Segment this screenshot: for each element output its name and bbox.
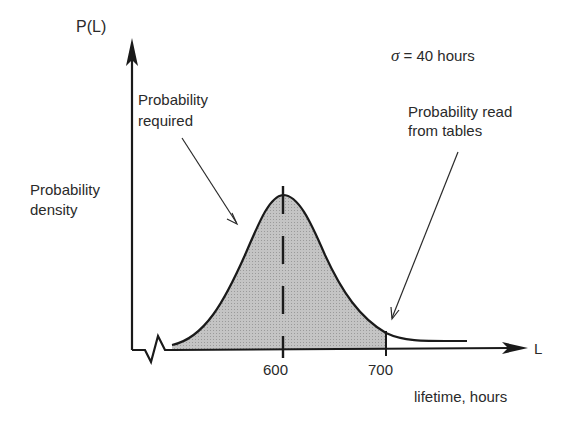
annotation-tables-line1: Probability read [408, 102, 512, 121]
annotation-tables-arrow [392, 152, 458, 318]
y-axis-symbol: P(L) [76, 17, 106, 36]
x-tick-600: 600 [263, 360, 288, 379]
x-axis-symbol: L [534, 339, 542, 358]
sigma-symbol: σ [391, 46, 399, 65]
annotation-required-arrowhead [227, 213, 237, 224]
y-axis-description-line2: density [30, 200, 78, 219]
annotation-required-line1: Probability [138, 90, 208, 109]
x-axis-description: lifetime, hours [414, 387, 507, 406]
normal-distribution-diagram: P(L) Probability density Probability req… [0, 0, 574, 428]
annotation-required-arrow [182, 138, 236, 222]
x-tick-700: 700 [368, 360, 393, 379]
annotation-tables-line2: from tables [408, 121, 482, 140]
x-axis-break [132, 336, 172, 362]
sigma-label: σ = 40 hours [391, 46, 475, 65]
y-axis-description-line1: Probability [30, 180, 100, 199]
annotation-required-line2: required [138, 111, 193, 130]
annotation-tables-arrowhead [391, 307, 399, 319]
sigma-value: = 40 hours [404, 47, 475, 64]
